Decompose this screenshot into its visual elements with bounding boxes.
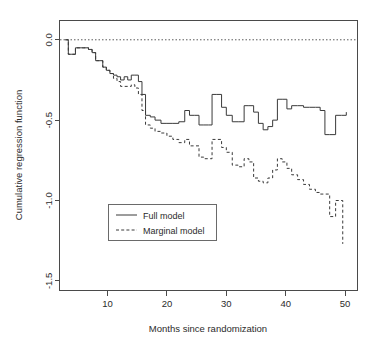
- y-tick-label: -1.5: [43, 273, 54, 289]
- y-tick-label: 0.0: [43, 33, 54, 46]
- x-tick-label: 20: [162, 298, 173, 309]
- chart-legend[interactable]: Full model Marginal model: [109, 205, 217, 241]
- y-tick-label: -1.0: [43, 192, 54, 208]
- chart-canvas: 0.0-0.5-1.0-1.5 1020304050 Full model Ma…: [0, 0, 380, 355]
- x-axis-title: Months since randomization: [149, 323, 267, 334]
- legend-label-marginal-model: Marginal model: [143, 226, 205, 236]
- x-tick-label: 40: [280, 298, 291, 309]
- figure-background: [0, 0, 380, 355]
- x-tick-label: 10: [102, 298, 113, 309]
- y-axis-title: Cumulative regression function: [13, 90, 24, 220]
- chart-figure: 0.0-0.5-1.0-1.5 1020304050 Full model Ma…: [0, 0, 380, 355]
- x-tick-label: 50: [340, 298, 351, 309]
- legend-label-full-model: Full model: [143, 211, 185, 221]
- x-tick-label: 30: [221, 298, 232, 309]
- y-tick-label: -0.5: [43, 112, 54, 128]
